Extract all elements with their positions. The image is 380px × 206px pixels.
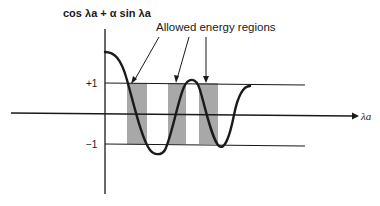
y-axis-label: cos λa + α sin λa (63, 7, 152, 19)
annotation-arrow-1 (134, 37, 159, 81)
annotation-arrowhead-3 (203, 76, 209, 83)
minus-one-line (105, 144, 305, 146)
tick-plus-one: +1 (86, 78, 98, 89)
tick-minus-one: −1 (86, 139, 98, 150)
x-axis-label: λa (360, 110, 372, 122)
annotation-label: Allowed energy regions (156, 21, 276, 33)
annotation-arrow-2 (177, 37, 189, 79)
x-axis-arrowhead (352, 113, 359, 120)
annotation-arrowhead-2 (174, 75, 179, 83)
band-structure-diagram: cos λa + α sin λa Allowed energy regions… (0, 0, 380, 206)
